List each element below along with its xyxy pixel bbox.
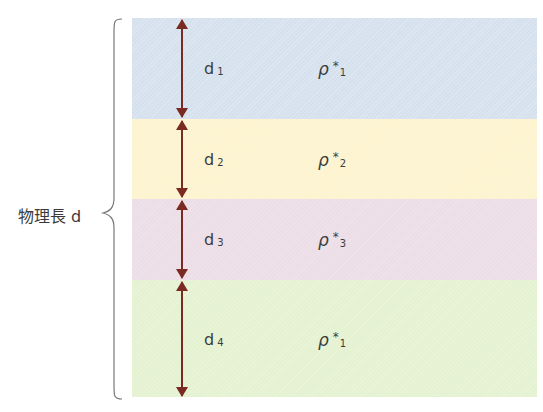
curly-brace-icon [100,18,124,400]
density-label-3: ρ*3 [318,230,346,250]
density-label-2: ρ*2 [318,150,346,170]
thickness-label-3: d3 [204,230,224,249]
thickness-label-4: d4 [204,330,224,349]
thickness-arrow-3 [175,201,189,278]
density-label-4: ρ*1 [318,330,346,350]
thickness-arrow-1 [175,20,189,117]
density-label-1: ρ*1 [318,59,346,79]
thickness-label-1: d1 [204,59,224,78]
thickness-label-2: d2 [204,150,224,169]
thickness-arrow-2 [175,121,189,197]
thickness-arrow-4 [175,282,189,396]
total-physical-length-label: 物理長 d [18,203,81,227]
